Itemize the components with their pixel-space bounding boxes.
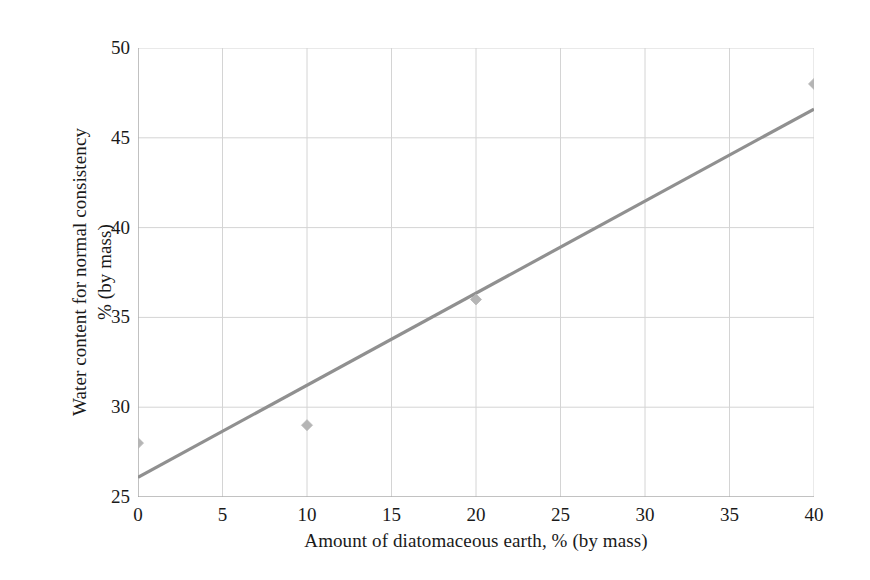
data-point-marker xyxy=(302,420,313,431)
plot-svg xyxy=(138,48,814,497)
x-tick-label: 20 xyxy=(456,504,496,526)
y-tick-label: 45 xyxy=(94,127,130,149)
x-tick-label: 5 xyxy=(203,504,243,526)
x-tick-label: 35 xyxy=(710,504,750,526)
plot-area xyxy=(138,48,814,497)
chart-figure: Water content for normal consistency % (… xyxy=(0,0,870,580)
y-axis-title-line1: Water content for normal consistency xyxy=(67,128,92,416)
x-axis-title: Amount of diatomaceous earth, % (by mass… xyxy=(138,530,814,552)
y-tick-label: 30 xyxy=(94,396,130,418)
data-point-marker xyxy=(138,438,144,449)
x-tick-label: 15 xyxy=(372,504,412,526)
y-tick-label: 40 xyxy=(94,217,130,239)
x-tick-label: 0 xyxy=(118,504,158,526)
y-tick-label: 35 xyxy=(94,306,130,328)
x-tick-label: 25 xyxy=(541,504,581,526)
y-axis-tick-labels: 253035404550 xyxy=(92,0,130,580)
x-tick-label: 40 xyxy=(794,504,834,526)
y-tick-label: 50 xyxy=(94,37,130,59)
x-tick-label: 30 xyxy=(625,504,665,526)
data-point-marker xyxy=(809,78,815,89)
x-tick-label: 10 xyxy=(287,504,327,526)
